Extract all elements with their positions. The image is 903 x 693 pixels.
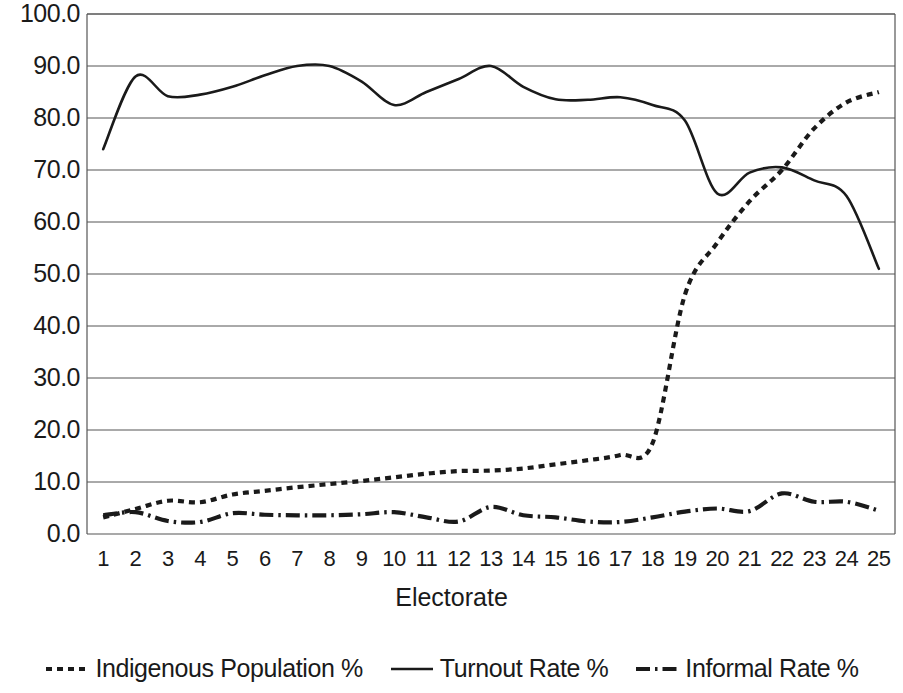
series-lines (103, 64, 879, 522)
plot-area (0, 0, 903, 560)
series-line-1 (103, 64, 879, 268)
series-line-2 (103, 493, 879, 522)
x-axis: 1234567891011121314151617181920212223242… (0, 546, 903, 576)
legend-label: Informal Rate % (685, 654, 858, 682)
dotted-line-icon (44, 659, 90, 677)
gridlines (87, 14, 895, 482)
series-line-0 (103, 92, 879, 517)
x-tick-label: 25 (859, 546, 899, 572)
chart-legend: Indigenous Population %Turnout Rate %Inf… (0, 654, 903, 682)
legend-item-1[interactable]: Turnout Rate % (389, 654, 609, 682)
line-chart: 100.090.080.070.060.050.040.030.020.010.… (0, 0, 903, 693)
solid-line-icon (389, 659, 435, 677)
dash-dot-line-icon (634, 659, 680, 677)
legend-item-0[interactable]: Indigenous Population % (44, 654, 362, 682)
legend-label: Indigenous Population % (95, 654, 362, 682)
legend-item-2[interactable]: Informal Rate % (634, 654, 858, 682)
x-axis-title: Electorate (0, 583, 903, 611)
legend-label: Turnout Rate % (440, 654, 609, 682)
